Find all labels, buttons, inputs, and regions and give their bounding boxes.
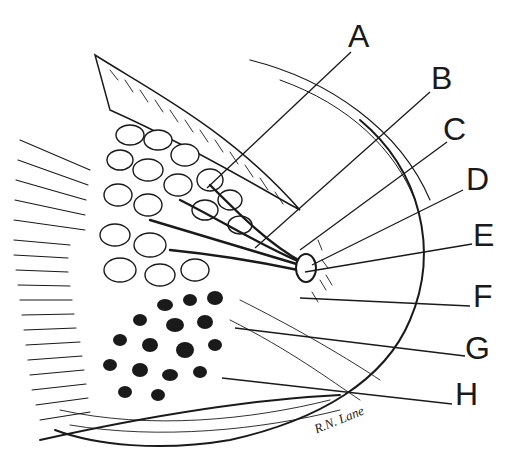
anatomy-diagram: ABCDEFGH R.N. Lane <box>0 0 505 475</box>
leader-line-d <box>312 190 463 265</box>
leader-line-a <box>207 52 351 188</box>
label-c: C <box>443 113 466 145</box>
leader-line-g <box>235 328 465 356</box>
label-b: B <box>431 62 452 94</box>
breast-anatomy-illustration <box>0 0 505 475</box>
leader-line-f <box>300 298 470 306</box>
label-e: E <box>473 219 494 251</box>
breast-outline <box>55 120 424 446</box>
label-a: A <box>348 20 369 52</box>
label-h: H <box>455 378 478 410</box>
label-f: F <box>473 280 493 312</box>
leader-line-e <box>305 244 472 272</box>
nipple <box>296 254 316 282</box>
label-d: D <box>466 163 489 195</box>
label-g: G <box>465 332 490 364</box>
fat-lobules <box>103 291 223 401</box>
leader-line-b <box>255 92 430 248</box>
